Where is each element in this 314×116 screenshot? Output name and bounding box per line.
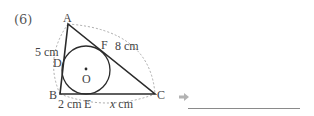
incircle-triangle-diagram: A B C D E F O 5 cm 8 cm 2 cm x cm [0, 0, 314, 116]
label-point-f: F [101, 38, 108, 52]
unit-cm: cm [115, 97, 133, 111]
label-point-e: E [84, 97, 91, 111]
label-length-ec: x cm [109, 97, 134, 111]
label-center-o: O [82, 72, 91, 86]
label-length-af: 8 cm [115, 39, 139, 53]
label-vertex-c: C [157, 88, 165, 102]
label-length-ad: 5 cm [35, 45, 59, 59]
center-dot [85, 68, 88, 71]
label-length-be: 2 cm [58, 97, 82, 111]
label-vertex-b: B [49, 88, 57, 102]
label-vertex-a: A [63, 11, 72, 25]
arrow-right-icon [178, 91, 190, 103]
answer-blank[interactable] [188, 108, 300, 109]
